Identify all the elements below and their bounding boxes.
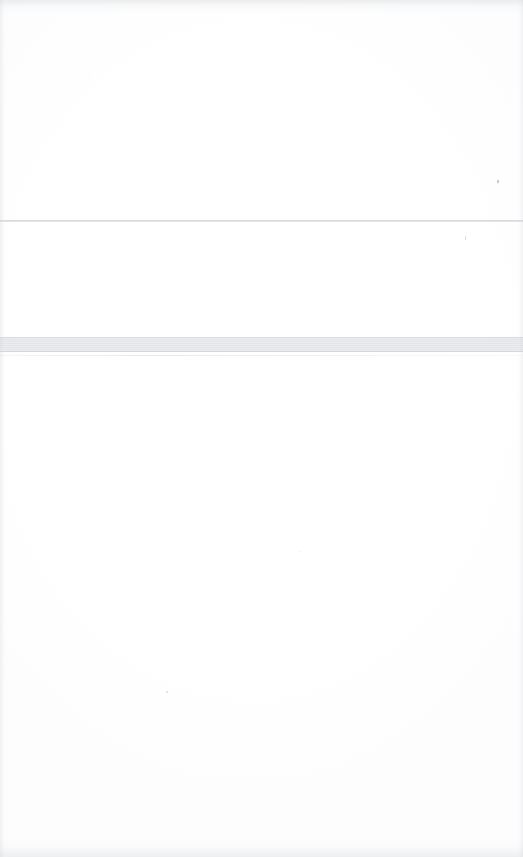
scan-grain-overlay <box>0 0 523 857</box>
scan-edge-left <box>0 0 8 857</box>
gray-band-divider <box>0 337 523 352</box>
scanned-page <box>0 0 523 857</box>
upper-blank-area <box>0 0 523 220</box>
middle-blank-area <box>0 222 523 337</box>
scan-speck-center-body <box>300 551 301 552</box>
scan-speck-right-upper <box>497 180 499 183</box>
lower-hairline-divider <box>0 355 523 356</box>
lower-blank-area <box>0 356 523 857</box>
scan-speck-right-middle <box>465 236 466 240</box>
scan-edge-bottom <box>0 837 523 857</box>
paper-background <box>0 0 523 857</box>
upper-hairline-divider <box>0 220 523 222</box>
scan-edge-right <box>515 0 523 857</box>
scan-edge-top <box>0 0 523 14</box>
scan-speck-center-lower <box>166 691 168 693</box>
